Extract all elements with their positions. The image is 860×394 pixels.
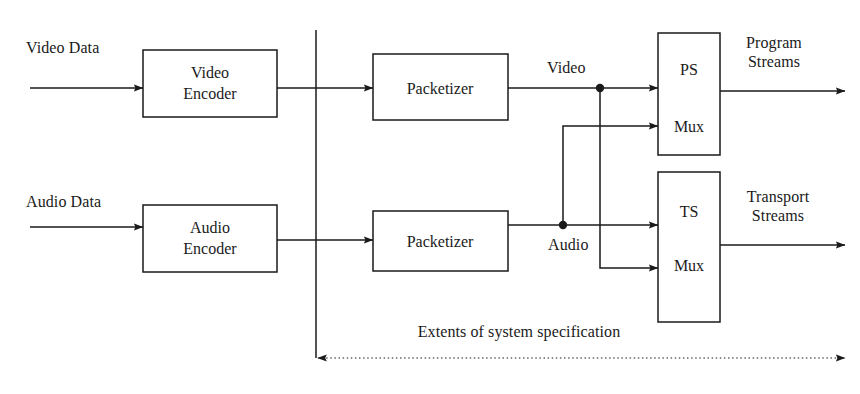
ps-mux-box xyxy=(658,33,720,155)
transport-streams-label-line1: Transport xyxy=(747,187,810,206)
audio-signal-label: Audio xyxy=(548,235,589,254)
video-packetizer-label: Packetizer xyxy=(407,78,474,99)
ps-mux-label-ps: PS xyxy=(680,59,698,80)
video-encoder-label: Video Encoder xyxy=(183,62,236,104)
extents-caption: Extents of system specification xyxy=(418,322,621,341)
video-data-label: Video Data xyxy=(26,38,99,57)
audio-encoder-label-line1: Audio xyxy=(183,217,236,238)
audio-encoder-label: Audio Encoder xyxy=(183,217,236,259)
program-streams-label-line1: Program xyxy=(746,33,802,52)
video-encoder-label-line2: Encoder xyxy=(183,83,236,104)
ts-mux-label-mux: Mux xyxy=(674,255,704,276)
ps-mux-label-mux: Mux xyxy=(674,116,704,137)
program-streams-label-line2: Streams xyxy=(746,52,802,71)
program-streams-label: Program Streams xyxy=(746,33,802,71)
video-junction-dot xyxy=(596,84,604,92)
audio-junction-dot xyxy=(559,221,567,229)
video-encoder-label-line1: Video xyxy=(183,62,236,83)
audio-encoder-label-line2: Encoder xyxy=(183,238,236,259)
video-signal-label: Video xyxy=(547,58,586,77)
transport-streams-label: Transport Streams xyxy=(747,187,810,225)
audio-data-label: Audio Data xyxy=(26,192,101,211)
video-branch-to-ts-mux xyxy=(600,88,658,268)
mpeg-system-diagram: Video Data Audio Data Video Encoder Audi… xyxy=(0,0,860,394)
audio-branch-to-ps-mux xyxy=(563,126,658,225)
transport-streams-label-line2: Streams xyxy=(747,206,810,225)
ts-mux-label-ts: TS xyxy=(680,201,699,222)
ts-mux-box xyxy=(658,172,720,322)
audio-packetizer-label: Packetizer xyxy=(407,231,474,252)
